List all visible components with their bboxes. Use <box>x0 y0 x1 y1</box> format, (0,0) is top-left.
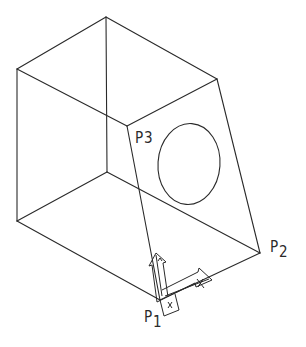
label-p1-index: 1 <box>153 313 162 331</box>
edge-left-bottom-p1 <box>17 221 160 300</box>
label-p2: P2 <box>270 240 289 255</box>
label-p3-index: 3 <box>144 129 153 147</box>
label-p2-letter: P <box>270 238 279 256</box>
label-p2-index: 2 <box>279 243 288 261</box>
edge-top-left-top <box>17 17 106 69</box>
edge-left-bottom-inner <box>17 172 107 221</box>
edge-left-top-p3 <box>17 69 127 126</box>
box-wireframe <box>17 17 260 300</box>
edge-top-right-top <box>106 17 217 79</box>
edge-right-top-p3 <box>127 79 217 126</box>
label-p3-letter: P <box>135 129 144 147</box>
edge-p3-p1 <box>127 126 160 300</box>
edge-right-top-p2 <box>217 79 260 253</box>
isometric-box-diagram <box>0 0 306 347</box>
circular-hole <box>155 121 222 206</box>
ucs-icon <box>149 253 212 316</box>
label-p1: P1 <box>144 310 163 325</box>
ucs-x-arrow-icon <box>157 268 212 302</box>
edge-top-inner-bottom <box>106 17 107 172</box>
label-p3: P3 <box>135 131 154 146</box>
edge-inner-p2 <box>107 172 260 253</box>
label-p1-letter: P <box>144 308 153 326</box>
